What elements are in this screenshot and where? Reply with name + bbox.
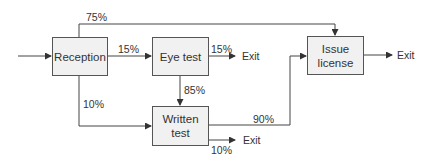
written-test-label-line2: test bbox=[171, 126, 190, 140]
eye-test-box: Eye test bbox=[152, 37, 209, 76]
reception-box: Reception bbox=[52, 37, 108, 76]
written-test-box: Written test bbox=[152, 106, 209, 146]
reception-to-issue-arrow bbox=[79, 24, 335, 37]
flow-connectors bbox=[0, 0, 427, 161]
edge-label-eye-to-written: 85% bbox=[184, 84, 205, 96]
issue-license-label-line1: Issue bbox=[322, 42, 350, 56]
edge-label-eye-to-exit: 15% bbox=[211, 43, 232, 55]
edge-label-written-to-exit: 10% bbox=[211, 144, 232, 156]
issue-license-label-line2: license bbox=[318, 56, 354, 70]
exit-label-eye: Exit bbox=[242, 50, 260, 62]
exit-label-written: Exit bbox=[243, 134, 261, 146]
eye-test-label: Eye test bbox=[160, 50, 202, 64]
written-test-label-line1: Written bbox=[162, 112, 198, 126]
edge-label-reception-to-written: 10% bbox=[83, 98, 104, 110]
edge-label-reception-to-issue: 75% bbox=[86, 11, 107, 23]
issue-license-box: Issue license bbox=[307, 36, 364, 75]
edge-label-written-to-issue: 90% bbox=[253, 113, 274, 125]
reception-label: Reception bbox=[54, 50, 106, 64]
exit-label-issue: Exit bbox=[397, 49, 415, 61]
edge-label-reception-to-eye: 15% bbox=[118, 43, 139, 55]
